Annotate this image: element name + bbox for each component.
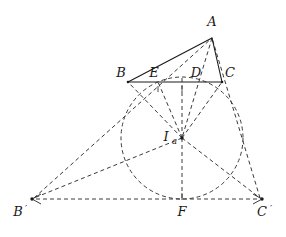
label-Bprime-letter: B (12, 204, 23, 219)
point-marker-Ia (180, 136, 183, 139)
label-C: C (225, 65, 235, 80)
segment-A-to-Ia (182, 38, 212, 138)
label-Bprime-mark: ′ (25, 203, 28, 214)
segment-Bprime-through-B-to-A (34, 38, 212, 198)
segment-Ia-to-E (158, 82, 182, 138)
label-Cprime: C ′ (257, 203, 273, 219)
point-markers (30, 81, 263, 201)
label-Bprime: B ′ (12, 203, 28, 219)
point-marker-C (221, 81, 224, 84)
label-Ia: I a (162, 129, 177, 146)
segment-Ia-to-B (128, 82, 182, 138)
label-Cprime-letter: C (257, 204, 267, 219)
label-D: D (190, 65, 202, 80)
point-marker-Cprime (260, 197, 263, 200)
point-marker-B (127, 81, 130, 84)
label-B: B (115, 65, 126, 80)
tick-marks (158, 86, 182, 200)
diagram-canvas: A B C E D I a B ′ C ′ F (0, 0, 286, 237)
label-F: F (176, 204, 187, 219)
label-Ia-subscript: a (172, 136, 177, 146)
segment-Cprime-through-C-to-A (212, 38, 260, 198)
label-Ia-letter: I (162, 129, 169, 144)
label-E: E (148, 65, 159, 80)
label-Cprime-mark: ′ (270, 203, 273, 214)
triangle-ABC (128, 38, 222, 82)
label-A: A (206, 14, 216, 29)
segment-Ia-to-Bprime (34, 138, 182, 198)
segment-Ia-to-C (182, 82, 222, 138)
segment-Ia-to-Cprime (182, 138, 260, 198)
dashed-construction-lines (34, 38, 260, 199)
point-marker-Bprime (30, 197, 33, 200)
side-AC (212, 38, 222, 82)
geometry-figure: A B C E D I a B ′ C ′ F (0, 0, 286, 237)
